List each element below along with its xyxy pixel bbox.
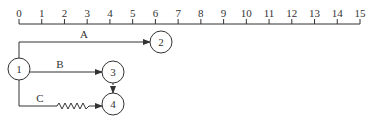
axis-tick-label: 10 [241, 7, 253, 19]
axis-tick-label: 9 [221, 7, 227, 19]
timeline-axis: 0123456789101112131415 [16, 7, 366, 24]
edge-c-label: C [36, 92, 43, 104]
edge-b-label: B [56, 58, 63, 70]
axis-tick-label: 12 [286, 7, 297, 19]
axis-tick-label: 14 [332, 7, 344, 19]
axis-tick-label: 4 [107, 7, 113, 19]
svg-text:2: 2 [158, 36, 164, 48]
axis-tick-label: 1 [39, 7, 45, 19]
svg-text:4: 4 [110, 98, 116, 110]
edge-a-label: A [80, 28, 88, 40]
axis-tick-label: 3 [84, 7, 90, 19]
axis-tick-label: 6 [153, 7, 159, 19]
axis-tick-label: 0 [16, 7, 22, 19]
axis-tick-label: 15 [355, 7, 367, 19]
node-3: 3 [102, 61, 124, 83]
edge-a: A [19, 28, 150, 58]
edge-b: B [30, 58, 102, 72]
axis-tick-label: 2 [62, 7, 68, 19]
svg-text:3: 3 [110, 66, 116, 78]
axis-tick-label: 7 [175, 7, 181, 19]
network-diagram: 0123456789101112131415 A B C 1 2 3 4 [0, 0, 376, 126]
node-2: 2 [150, 31, 172, 53]
edge-c: C [19, 80, 102, 109]
axis-tick-label: 5 [130, 7, 136, 19]
node-1: 1 [8, 58, 30, 80]
axis-tick-label: 8 [198, 7, 204, 19]
axis-tick-label: 11 [264, 7, 275, 19]
svg-text:1: 1 [16, 63, 22, 75]
axis-tick-label: 13 [309, 7, 321, 19]
node-4: 4 [102, 93, 124, 115]
